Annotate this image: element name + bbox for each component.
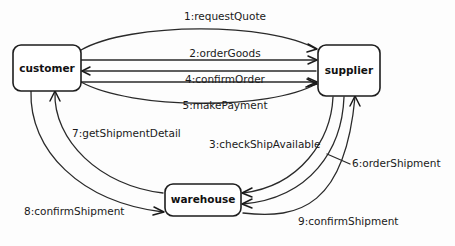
message-label-6: 6:orderShipment xyxy=(352,157,441,169)
uml-communication-diagram: customer supplier warehouse 1:requestQuo… xyxy=(0,0,455,246)
node-warehouse[interactable]: warehouse xyxy=(165,184,241,216)
diagram-canvas: customer supplier warehouse 1:requestQuo… xyxy=(0,0,455,246)
message-label-4: 4:confirmOrder xyxy=(185,73,266,85)
message-label-8: 8:confirmShipment xyxy=(24,205,124,217)
node-customer[interactable]: customer xyxy=(13,45,81,91)
message-leader-6 xyxy=(327,154,350,164)
message-line-6 xyxy=(243,97,344,204)
message-line-9 xyxy=(243,97,355,214)
message-label-2: 2:orderGoods xyxy=(189,47,260,59)
customer-label: customer xyxy=(19,62,75,74)
node-supplier[interactable]: supplier xyxy=(318,45,380,96)
message-label-9: 9:confirmShipment xyxy=(298,215,398,227)
message-link-7-getShipmentDetail[interactable] xyxy=(50,91,163,193)
message-label-1: 1:requestQuote xyxy=(184,10,266,22)
message-label-7: 7:getShipmentDetail xyxy=(72,127,181,139)
message-line-7 xyxy=(55,92,163,193)
message-label-3: 3:checkShipAvailable xyxy=(209,138,320,150)
message-link-8-confirmShipment[interactable] xyxy=(31,91,164,215)
message-line-8 xyxy=(31,91,163,212)
message-link-6-orderShipment[interactable] xyxy=(242,97,350,208)
message-label-5: 5:makePayment xyxy=(182,99,267,111)
warehouse-label: warehouse xyxy=(171,193,236,205)
supplier-label: supplier xyxy=(325,64,374,76)
